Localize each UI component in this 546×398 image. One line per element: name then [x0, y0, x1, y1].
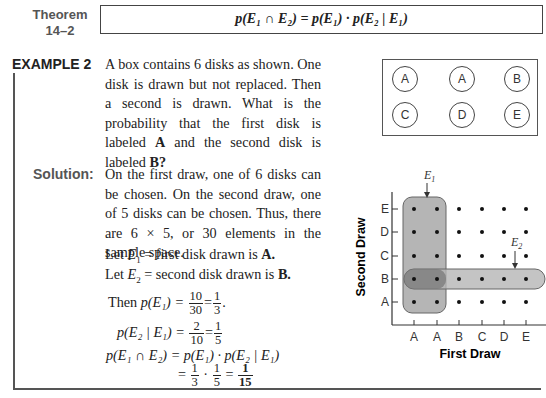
denominator: 3 — [213, 304, 221, 317]
region-e1 — [403, 197, 446, 313]
svg-text:C: C — [478, 330, 487, 344]
svg-text:D: D — [380, 225, 389, 239]
numerator: 10 — [189, 290, 204, 304]
svg-text:B: B — [455, 330, 463, 344]
numerator: 1 — [191, 362, 199, 376]
svg-text:A: A — [381, 295, 389, 309]
example-label: EXAMPLE 2 — [12, 56, 91, 72]
disk: A — [449, 66, 475, 92]
eq1-lhs: p(E₁) = — [141, 294, 184, 310]
svg-text:C: C — [380, 249, 389, 263]
solution-label: Solution: — [33, 166, 94, 182]
svg-text:E: E — [381, 202, 389, 216]
x-axis-title: First Draw — [439, 347, 500, 361]
svg-text:D: D — [500, 330, 509, 344]
then-word: Then — [108, 294, 137, 310]
let-bold: A. — [261, 246, 275, 262]
svg-text:E: E — [522, 330, 530, 344]
disk: D — [449, 102, 475, 128]
period: . — [222, 294, 226, 310]
fraction: 15 — [214, 320, 222, 347]
left-rule — [13, 73, 15, 389]
e2-arrow-icon — [512, 263, 518, 269]
theorem-label-word: Theorem — [30, 7, 90, 23]
result-fraction: 115 — [238, 362, 253, 389]
let-word: Let — [105, 246, 127, 262]
problem-bold-a: A — [155, 134, 165, 150]
let-e2: Let E2 = second disk drawn is B. — [105, 265, 291, 290]
denominator: 5 — [213, 376, 221, 389]
e2-label: E2 — [510, 235, 522, 251]
svg-text:A: A — [410, 330, 418, 344]
disk: B — [504, 66, 530, 92]
fraction: 13 — [213, 290, 221, 317]
let-text: = first disk drawn is — [141, 246, 262, 262]
y-tick-labels: E D C B A — [380, 202, 389, 309]
disk: E — [504, 102, 530, 128]
equation-4: = 13 · 15 = 115 — [178, 362, 254, 389]
eq2-lhs: p(E₂ | E₁) = — [117, 324, 185, 340]
numerator: 1 — [214, 320, 222, 334]
let-text: = second disk drawn is — [141, 266, 278, 282]
denominator: 3 — [191, 376, 199, 389]
svg-text:A: A — [433, 330, 441, 344]
equation-2: p(E₂ | E₁) = 210=15 — [117, 320, 223, 347]
problem-text: A box contains 6 disks as shown. One dis… — [105, 55, 321, 173]
x-tick-labels: A A B C D E — [410, 330, 530, 344]
y-ticks — [392, 209, 398, 302]
denominator: 30 — [189, 304, 204, 317]
sample-space-chart: E D C B A A A B C D E First Draw Second … — [345, 162, 546, 392]
numerator: 1 — [213, 362, 221, 376]
numerator: 2 — [189, 320, 204, 334]
region-overlap — [404, 269, 446, 289]
fraction: 1030 — [189, 290, 204, 317]
x-ticks — [414, 320, 526, 325]
fraction: 15 — [213, 362, 221, 389]
event-var: E — [127, 266, 136, 282]
numerator: 1 — [213, 290, 221, 304]
theorem-number: 14–2 — [30, 23, 90, 39]
equation-1: Then p(E₁) = 1030=13. — [108, 290, 226, 317]
disk-box: A A B C D E — [382, 59, 538, 136]
let-bold: B. — [278, 266, 291, 282]
theorem-label: Theorem 14–2 — [30, 7, 90, 39]
denominator: 15 — [238, 376, 253, 389]
numerator: 1 — [238, 362, 253, 376]
disk: A — [392, 66, 418, 92]
event-var: E — [127, 246, 136, 262]
theorem-box: p(E₁ ∩ E₂) = p(E₁) · p(E₂ | E₁) — [100, 5, 543, 34]
svg-text:B: B — [381, 272, 389, 286]
e1-label: E1 — [423, 168, 435, 184]
disk: C — [392, 102, 418, 128]
let-word: Let — [105, 266, 127, 282]
fraction: 210 — [189, 320, 204, 347]
fraction: 13 — [191, 362, 199, 389]
theorem-formula: p(E₁ ∩ E₂) = p(E₁) · p(E₂ | E₁) — [101, 11, 542, 27]
y-axis-title: Second Draw — [354, 217, 368, 296]
